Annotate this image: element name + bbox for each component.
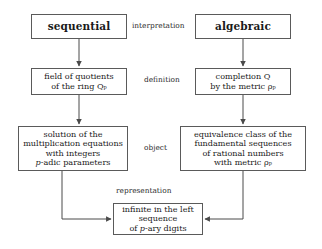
node-completion-label: completion Q by the metric ρₚ bbox=[196, 72, 290, 90]
edge-label-definition: definition bbox=[143, 75, 181, 84]
edge-label-object: object bbox=[143, 143, 168, 152]
edge-solution-to-infinite bbox=[62, 171, 111, 219]
node-equivalence-class[interactable]: equivalence class of the fundamental seq… bbox=[180, 126, 306, 171]
node-solution[interactable]: solution of the multiplication equations… bbox=[18, 126, 128, 171]
node-equivalence-class-label: equivalence class of the fundamental seq… bbox=[181, 130, 305, 166]
node-infinite-sequence-label: infinite in the left sequence of p-ary d… bbox=[114, 205, 202, 232]
node-sequential-label: sequential bbox=[32, 21, 126, 33]
edge-equivalence-to-infinite bbox=[205, 171, 243, 219]
diagram-canvas: sequential algebraic field of quotients … bbox=[0, 0, 322, 249]
edge-label-interpretation: interpretation bbox=[131, 21, 186, 30]
node-completion[interactable]: completion Q by the metric ρₚ bbox=[195, 68, 291, 95]
node-sequential[interactable]: sequential bbox=[31, 14, 127, 39]
node-field-of-quotients-label: field of quotients of the ring Qₚ bbox=[32, 72, 126, 90]
node-solution-label: solution of the multiplication equations… bbox=[19, 130, 127, 166]
node-algebraic-label: algebraic bbox=[196, 21, 290, 33]
node-field-of-quotients[interactable]: field of quotients of the ring Qₚ bbox=[31, 68, 127, 95]
node-infinite-sequence[interactable]: infinite in the left sequence of p-ary d… bbox=[113, 203, 203, 235]
edge-label-representation: representation bbox=[115, 186, 172, 195]
node-algebraic[interactable]: algebraic bbox=[195, 14, 291, 39]
